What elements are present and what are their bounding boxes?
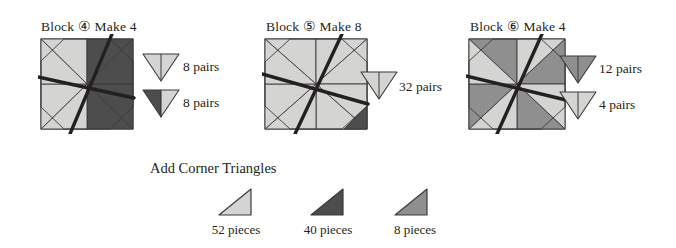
block-6-title: Block ⑥ Make 4 (470, 18, 566, 35)
pair-kite-medium (557, 50, 599, 86)
corner-triangle-dark-label: 40 pieces (288, 222, 368, 238)
block-6-pairs-label-2: 4 pairs (599, 97, 635, 113)
block-group-6: Block ⑥ Make 4 (0, 0, 240, 150)
block-6-diagram (466, 34, 570, 134)
block-5-title: Block ⑤ Make 8 (266, 18, 362, 35)
block-5-diagram (262, 34, 372, 134)
block-5-pairs-label-1: 32 pairs (399, 79, 442, 95)
corner-triangle-dark (308, 186, 348, 218)
pair-kite-light (358, 66, 400, 102)
block-6-pairs-label-1: 12 pairs (599, 61, 642, 77)
corner-triangle-light (216, 186, 256, 218)
add-corner-triangles-heading: Add Corner Triangles (150, 160, 276, 177)
corner-triangle-medium (392, 186, 432, 218)
corner-triangle-medium-label: 8 pieces (375, 222, 455, 238)
corner-triangle-light-label: 52 pieces (196, 222, 276, 238)
quilt-block-diagram: Block ④ Make 4 (0, 0, 676, 248)
pair-kite-light (557, 86, 599, 122)
